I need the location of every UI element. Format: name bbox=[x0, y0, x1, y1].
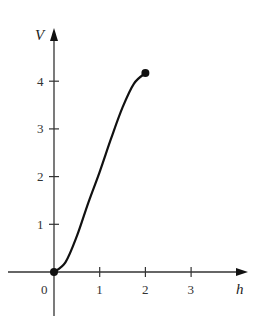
axes bbox=[8, 28, 248, 316]
chart: 1231234 V h 0 bbox=[0, 0, 260, 318]
x-tick-label: 2 bbox=[142, 282, 149, 297]
y-tick-label: 2 bbox=[37, 169, 44, 184]
curve-v-of-h bbox=[54, 73, 145, 272]
origin-label: 0 bbox=[41, 282, 48, 297]
y-axis-label: V bbox=[35, 27, 46, 43]
ticks: 1231234 bbox=[37, 74, 194, 297]
x-tick-label: 1 bbox=[96, 282, 103, 297]
x-axis-arrow-icon bbox=[236, 268, 248, 276]
start-point-dot-icon bbox=[50, 268, 58, 276]
y-tick-label: 4 bbox=[37, 74, 44, 89]
y-axis-arrow-icon bbox=[50, 28, 58, 41]
x-tick-label: 3 bbox=[188, 282, 195, 297]
y-tick-label: 1 bbox=[37, 217, 44, 232]
y-tick-label: 3 bbox=[37, 121, 44, 136]
x-axis-label: h bbox=[236, 281, 244, 297]
end-point-dot-icon bbox=[141, 69, 149, 77]
